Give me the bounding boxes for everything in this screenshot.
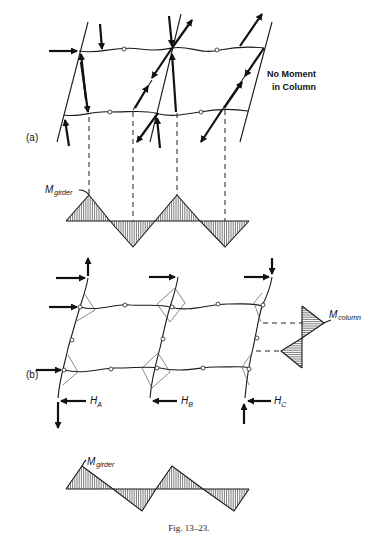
arrow-diagonal-up-3 <box>240 14 262 46</box>
hinge <box>122 47 126 51</box>
girder-moment-diagram-b <box>66 460 249 515</box>
arrow-up-2 <box>157 118 160 148</box>
hinge <box>199 110 203 114</box>
arrow-down <box>100 24 102 49</box>
figure-caption: Fig. 13–23. <box>168 523 209 533</box>
m-girder-label-a: Mgirder <box>45 184 73 197</box>
leader-line <box>79 190 89 195</box>
arrow-diagonal-down-2 <box>137 113 158 142</box>
arrow-up <box>65 120 69 146</box>
part-b-label: (b) <box>26 369 38 380</box>
arrow-diagonal-up-4 <box>224 82 242 108</box>
reaction-label-hb: HB <box>181 395 193 408</box>
no-moment-label-1: No Moment <box>267 69 316 79</box>
leader-line <box>82 460 86 466</box>
part-a-frame <box>49 14 272 148</box>
arrow-down-mid <box>169 16 172 46</box>
part-b-frame <box>36 258 272 428</box>
arrow-column-up <box>81 54 86 100</box>
hinge <box>108 110 112 114</box>
arrow-up-mid <box>172 54 176 112</box>
column-moment-diagram <box>278 304 326 370</box>
no-moment-label-2: in Column <box>272 82 316 92</box>
m-girder-label-b: Mgirder <box>87 456 115 469</box>
m-column-label: Mcolumn <box>329 309 361 321</box>
reaction-label-hc: HC <box>274 395 287 408</box>
arrow-diagonal-up-2 <box>135 86 148 108</box>
column-a2 <box>150 14 181 142</box>
figure-canvas: (a) No Moment in Column Mgirder <box>0 0 378 542</box>
arrow-diagonal-down-4 <box>201 110 222 142</box>
girder-moment-diagram-a <box>66 190 249 250</box>
arrow-diagonal-up <box>172 20 192 48</box>
reaction-label-ha: HA <box>90 395 102 408</box>
leader-line <box>324 320 331 323</box>
part-a-label: (a) <box>26 132 38 143</box>
hinge <box>215 48 219 52</box>
